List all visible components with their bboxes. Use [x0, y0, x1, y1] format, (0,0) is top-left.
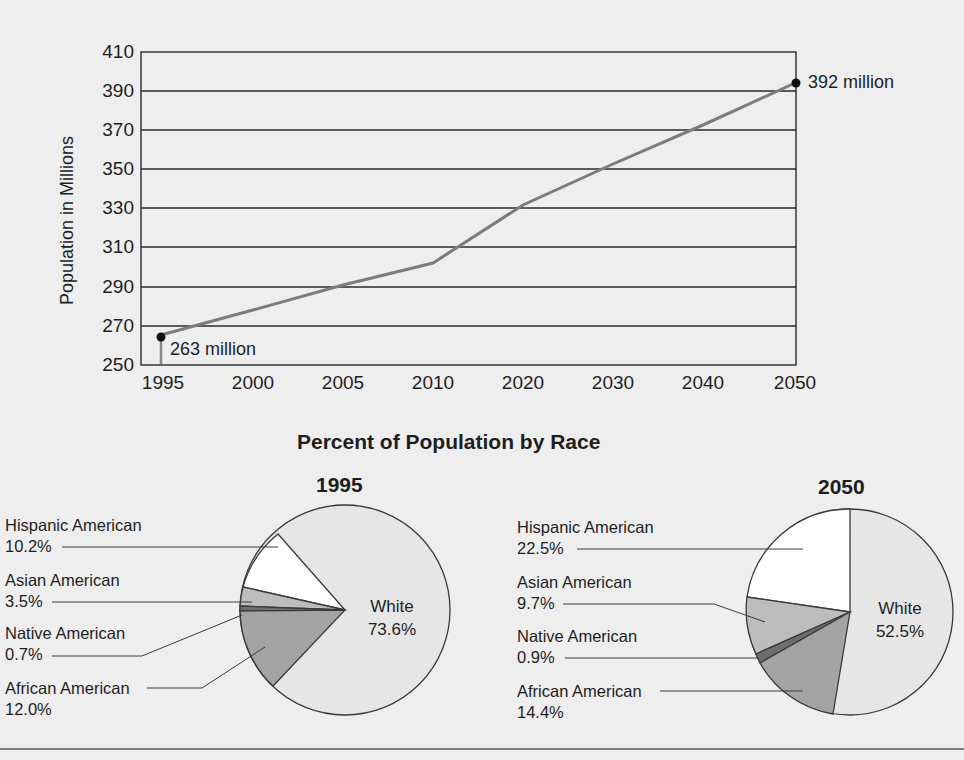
pie-2050-african-pct: 14.4% [517, 702, 642, 723]
pie-section-title: Percent of Population by Race [297, 430, 600, 454]
pie-2050-hispanic-slice [747, 509, 850, 612]
pie-2050-hispanic-pct: 22.5% [517, 538, 654, 559]
y-axis-label: Population in Millions [57, 136, 78, 305]
y-tick-370: 370 [84, 119, 134, 141]
pie-2050-hispanic-label: Hispanic American 22.5% [517, 517, 654, 559]
pie-1995-asian-label: Asian American 3.5% [5, 570, 120, 612]
pie-1995-asian-pct: 3.5% [5, 591, 120, 612]
pie-1995-hispanic-name: Hispanic American [5, 515, 142, 536]
y-tick-290: 290 [84, 276, 134, 298]
y-tick-350: 350 [84, 158, 134, 180]
pie-1995-african-pct: 12.0% [5, 699, 130, 720]
x-tick-2040: 2040 [673, 372, 733, 394]
pie-2050-native-name: Native American [517, 626, 637, 647]
x-tick-2050: 2050 [765, 372, 825, 394]
y-tick-330: 330 [84, 197, 134, 219]
pie-1995-native-name: Native American [5, 623, 125, 644]
pie-2050-title: 2050 [818, 475, 865, 499]
x-tick-2005: 2005 [313, 372, 373, 394]
pie-2050-native-label: Native American 0.9% [517, 626, 637, 668]
pie-2050-african-label: African American 14.4% [517, 681, 642, 723]
pie-2050-asian-pct: 9.7% [517, 593, 632, 614]
y-tick-390: 390 [84, 80, 134, 102]
start-point-marker [157, 333, 166, 342]
y-tick-310: 310 [84, 236, 134, 258]
pie-2050-hispanic-name: Hispanic American [517, 517, 654, 538]
pie-2050-asian-name: Asian American [517, 572, 632, 593]
y-tick-270: 270 [84, 315, 134, 337]
pie-1995-white-name: White [352, 595, 432, 618]
pie-1995-title: 1995 [316, 473, 363, 497]
pie-1995-white-label: White 73.6% [352, 595, 432, 641]
pie-1995-african-name: African American [5, 678, 130, 699]
y-tick-410: 410 [84, 41, 134, 63]
bottom-divider [0, 748, 964, 750]
x-tick-2030: 2030 [583, 372, 643, 394]
pie-2050-asian-label: Asian American 9.7% [517, 572, 632, 614]
y-tick-250: 250 [84, 354, 134, 376]
pie-2050-white-label: White 52.5% [860, 597, 940, 643]
pie-2050-native-pct: 0.9% [517, 647, 637, 668]
x-tick-2020: 2020 [493, 372, 553, 394]
pie-1995-african-label: African American 12.0% [5, 678, 130, 720]
pie-2050-african-name: African American [517, 681, 642, 702]
x-tick-2010: 2010 [403, 372, 463, 394]
pie-1995-native-label: Native American 0.7% [5, 623, 125, 665]
end-point-marker [792, 79, 801, 88]
pie-1995-white-pct: 73.6% [352, 618, 432, 641]
x-tick-1995: 1995 [133, 372, 193, 394]
start-annotation: 263 million [170, 339, 256, 360]
pie-2050-white-pct: 52.5% [860, 620, 940, 643]
population-line [161, 83, 795, 335]
pie-1995-asian-name: Asian American [5, 570, 120, 591]
pie-1995-native-pct: 0.7% [5, 644, 125, 665]
end-annotation: 392 million [808, 72, 894, 93]
pie-1995-hispanic-label: Hispanic American 10.2% [5, 515, 142, 557]
pie-1995-hispanic-pct: 10.2% [5, 536, 142, 557]
line-chart-grid [141, 52, 796, 365]
pie-2050-white-name: White [860, 597, 940, 620]
x-tick-2000: 2000 [223, 372, 283, 394]
